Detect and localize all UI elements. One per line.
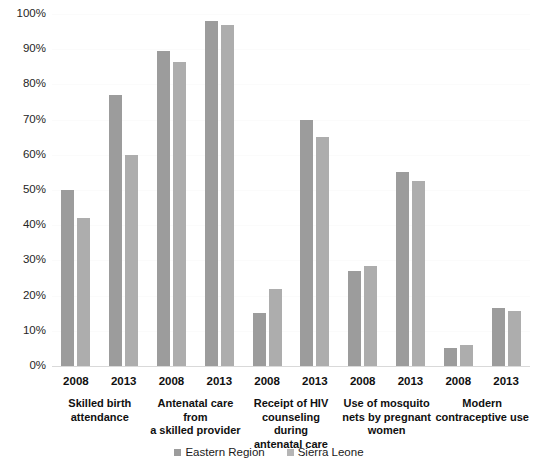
y-axis-tick-label: 0% xyxy=(0,360,46,372)
year-bar-pair xyxy=(482,14,530,366)
bar-group xyxy=(434,14,530,366)
bar-group xyxy=(148,14,244,366)
x-axis-year-labels: 20082013 xyxy=(243,368,339,388)
x-axis-year-label: 2008 xyxy=(339,368,387,388)
bar-sierra-leone[interactable] xyxy=(412,181,425,366)
x-axis-year-labels: 20082013 xyxy=(52,368,148,388)
year-bar-pair xyxy=(291,14,339,366)
x-axis-year-label: 2013 xyxy=(291,368,339,388)
y-axis-tick-label: 30% xyxy=(0,254,46,266)
bar-eastern-region[interactable] xyxy=(61,190,74,366)
legend-label: Sierra Leone xyxy=(298,446,364,458)
x-axis-group: 20082013Antenatal care froma skilled pro… xyxy=(148,368,244,444)
year-bar-pair xyxy=(148,14,196,366)
y-axis-tick-label: 10% xyxy=(0,325,46,337)
y-axis: 0%10%20%30%40%50%60%70%80%90%100% xyxy=(0,14,46,366)
bar-eastern-region[interactable] xyxy=(492,308,505,366)
year-bar-pair xyxy=(52,14,100,366)
y-axis-tick-label: 40% xyxy=(0,219,46,231)
x-axis-year-labels: 20082013 xyxy=(148,368,244,388)
bar-sierra-leone[interactable] xyxy=(316,137,329,366)
x-axis-group: 20082013Skilled birthattendance xyxy=(52,368,148,444)
y-axis-tick-label: 100% xyxy=(0,8,46,20)
bar-sierra-leone[interactable] xyxy=(173,62,186,366)
bar-sierra-leone[interactable] xyxy=(364,266,377,366)
bar-eastern-region[interactable] xyxy=(300,120,313,366)
bar-sierra-leone[interactable] xyxy=(221,25,234,366)
bar-eastern-region[interactable] xyxy=(205,21,218,366)
x-axis-group: 20082013Moderncontraceptive use xyxy=(434,368,530,444)
axis-baseline xyxy=(52,366,530,367)
bar-eastern-region[interactable] xyxy=(444,348,457,366)
x-axis-category-label: Antenatal care froma skilled provider xyxy=(148,397,244,438)
legend-item[interactable]: Eastern Region xyxy=(174,446,264,458)
x-axis-year-label: 2008 xyxy=(52,368,100,388)
legend-item[interactable]: Sierra Leone xyxy=(287,446,364,458)
legend-swatch-icon xyxy=(287,449,294,456)
bar-group xyxy=(339,14,435,366)
bar-eastern-region[interactable] xyxy=(253,313,266,366)
x-axis-year-label: 2013 xyxy=(482,368,530,388)
y-axis-tick-label: 90% xyxy=(0,43,46,55)
bar-eastern-region[interactable] xyxy=(157,51,170,366)
year-bar-pair xyxy=(387,14,435,366)
x-axis-year-label: 2013 xyxy=(195,368,243,388)
x-axis-group: 20082013Use of mosquitonets by pregnantw… xyxy=(339,368,435,444)
x-axis-year-label: 2008 xyxy=(243,368,291,388)
y-axis-tick-label: 50% xyxy=(0,184,46,196)
bar-sierra-leone[interactable] xyxy=(269,289,282,366)
legend-label: Eastern Region xyxy=(185,446,264,458)
bar-sierra-leone[interactable] xyxy=(508,311,521,366)
bar-sierra-leone[interactable] xyxy=(460,345,473,366)
x-axis-year-labels: 20082013 xyxy=(434,368,530,388)
bar-eastern-region[interactable] xyxy=(109,95,122,366)
y-axis-tick-label: 20% xyxy=(0,290,46,302)
x-axis-category-label: Receipt of HIVcounseling duringantenatal… xyxy=(243,397,339,451)
x-axis-category-label: Use of mosquitonets by pregnantwomen xyxy=(339,397,435,438)
x-axis-group: 20082013Receipt of HIVcounseling duringa… xyxy=(243,368,339,444)
bar-groups xyxy=(52,14,530,366)
year-bar-pair xyxy=(434,14,482,366)
x-axis-year-label: 2008 xyxy=(148,368,196,388)
year-bar-pair xyxy=(243,14,291,366)
x-axis-year-label: 2013 xyxy=(387,368,435,388)
bar-group xyxy=(52,14,148,366)
legend-swatch-icon xyxy=(174,449,181,456)
x-axis-year-label: 2013 xyxy=(100,368,148,388)
bar-sierra-leone[interactable] xyxy=(77,218,90,366)
year-bar-pair xyxy=(100,14,148,366)
plot-area xyxy=(52,14,530,366)
bar-eastern-region[interactable] xyxy=(348,271,361,366)
year-bar-pair xyxy=(339,14,387,366)
y-axis-tick-label: 80% xyxy=(0,78,46,90)
bar-chart: 0%10%20%30%40%50%60%70%80%90%100% 200820… xyxy=(0,0,538,468)
bar-group xyxy=(243,14,339,366)
x-axis-year-labels: 20082013 xyxy=(339,368,435,388)
x-axis-year-label: 2008 xyxy=(434,368,482,388)
x-axis-category-label: Moderncontraceptive use xyxy=(434,397,530,424)
year-bar-pair xyxy=(195,14,243,366)
x-axis: 20082013Skilled birthattendance20082013A… xyxy=(52,368,530,444)
chart-legend: Eastern RegionSierra Leone xyxy=(0,446,538,458)
y-axis-tick-label: 70% xyxy=(0,114,46,126)
x-axis-category-label: Skilled birthattendance xyxy=(52,397,148,424)
bar-eastern-region[interactable] xyxy=(396,172,409,366)
bar-sierra-leone[interactable] xyxy=(125,155,138,366)
y-axis-tick-label: 60% xyxy=(0,149,46,161)
